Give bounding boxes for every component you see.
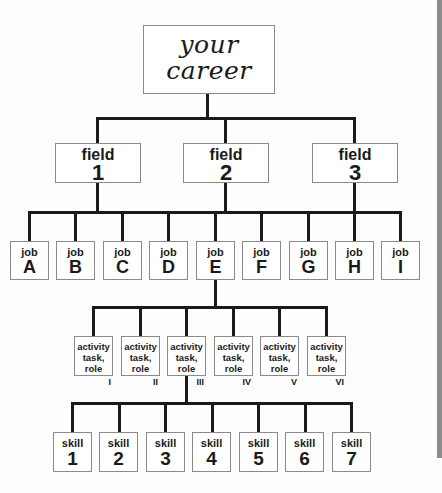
skill-node-3: skill3 — [146, 432, 185, 472]
job-connector — [121, 211, 124, 241]
activity-label: activity task, role — [122, 341, 159, 374]
job-node-a: jobA — [10, 241, 49, 280]
job-connector — [353, 211, 356, 241]
job-node-g: jobG — [289, 241, 328, 280]
activity-node-vi: activity task, role — [307, 336, 346, 376]
job-connector — [399, 211, 402, 241]
activity-connector — [232, 306, 235, 336]
activity-node-v: activity task, role — [260, 336, 299, 376]
root-node-your-career: your career — [143, 25, 275, 94]
job-letter: I — [382, 258, 419, 276]
field-node-2: field 2 — [183, 143, 269, 183]
activity-node-ii: activity task, role — [121, 336, 160, 376]
job-letter: F — [243, 258, 280, 276]
root-stem — [206, 94, 209, 119]
job-letter: D — [150, 258, 187, 276]
job-node-b: jobB — [56, 241, 95, 280]
field-number: 2 — [184, 163, 268, 183]
job-letter: C — [104, 258, 141, 276]
job-node-f: jobF — [242, 241, 281, 280]
job-node-c: jobC — [103, 241, 142, 280]
activity-label: activity task, role — [308, 341, 345, 374]
skill-node-7: skill7 — [332, 432, 371, 472]
skill-connector — [257, 402, 260, 432]
activity-label: activity task, role — [75, 341, 112, 374]
job-connector — [307, 211, 310, 241]
job-connector — [167, 211, 170, 241]
skill-node-4: skill4 — [192, 432, 231, 472]
job-connector — [260, 211, 263, 241]
field-3-connector — [353, 117, 356, 143]
job-node-d: jobD — [149, 241, 188, 280]
activity-node-iv: activity task, role — [214, 336, 253, 376]
field-node-3: field 3 — [312, 143, 398, 183]
skill-node-2: skill2 — [99, 432, 138, 472]
activity-label: activity task, role — [215, 341, 252, 374]
field-2-connector — [224, 117, 227, 143]
activity-connector — [325, 306, 328, 336]
activity-connector — [185, 306, 188, 336]
skill-number: 3 — [147, 449, 184, 468]
activity-connector — [92, 306, 95, 336]
job-letter: G — [290, 258, 327, 276]
activity-label: activity task, role — [261, 341, 298, 374]
activity-label: activity task, role — [168, 341, 205, 374]
skill-connector — [118, 402, 121, 432]
skill-node-1: skill1 — [53, 432, 92, 472]
field-1-connector — [96, 117, 99, 143]
root-label: your career — [144, 32, 274, 84]
page-edge-bar — [437, 0, 442, 458]
skill-number: 2 — [100, 449, 137, 468]
field-node-1: field 1 — [55, 143, 141, 183]
job-connector — [214, 211, 217, 241]
activity-numeral: III — [184, 377, 204, 387]
skill-number: 6 — [286, 449, 323, 468]
skill-connector — [71, 402, 74, 432]
activity-connector — [139, 306, 142, 336]
job-node-i: jobI — [381, 241, 420, 280]
field-1-stem — [96, 183, 99, 213]
activity-node-i: activity task, role — [74, 336, 113, 376]
activity-connector — [278, 306, 281, 336]
skill-number: 4 — [193, 449, 230, 468]
job-connector — [28, 211, 31, 241]
field-number: 3 — [313, 163, 397, 183]
activity-node-iii: activity task, role — [167, 336, 206, 376]
skill-number: 7 — [333, 449, 370, 468]
job-letter: A — [11, 258, 48, 276]
skill-connector — [211, 402, 214, 432]
field-3-stem — [353, 183, 356, 213]
job-letter: H — [336, 258, 373, 276]
skill-connector — [164, 402, 167, 432]
skill-node-5: skill5 — [239, 432, 278, 472]
activity-numeral: VI — [324, 377, 344, 387]
job-node-h: jobH — [335, 241, 374, 280]
activity-numeral: II — [138, 377, 158, 387]
skill-number: 5 — [240, 449, 277, 468]
activity-bus — [92, 306, 328, 309]
job-letter: E — [197, 258, 234, 276]
job-letter: B — [57, 258, 94, 276]
activity-numeral: I — [91, 377, 111, 387]
job-node-e: jobE — [196, 241, 235, 280]
skill-connector — [350, 402, 353, 432]
activity-numeral: IV — [231, 377, 251, 387]
field-2-stem — [224, 183, 227, 213]
skill-connector — [304, 402, 307, 432]
job-e-stem — [214, 280, 217, 307]
activity-numeral: V — [277, 377, 297, 387]
skill-number: 1 — [54, 449, 91, 468]
job-connector — [74, 211, 77, 241]
field-number: 1 — [56, 163, 140, 183]
skill-node-6: skill6 — [285, 432, 324, 472]
